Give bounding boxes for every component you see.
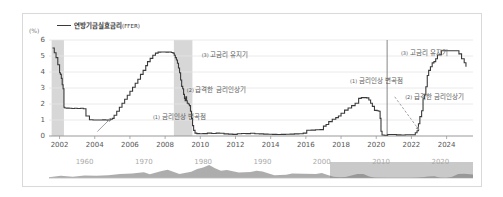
chart-annotation-a1: (1) 금리인상 변곡점 xyxy=(153,111,206,121)
annotation-text: 금리인상 변곡점 xyxy=(162,113,206,121)
range-selector[interactable]: 1960197019801990200020102020 xyxy=(23,156,481,185)
annotation-index: (3) xyxy=(401,50,410,56)
x-axis-tick-label: 2018 xyxy=(332,141,350,149)
overview-tick-label: 1970 xyxy=(135,158,153,166)
y-axis-tick-label: 1 xyxy=(23,116,45,124)
y-axis-unit-label: (%) xyxy=(29,27,39,34)
annotation-index: (1) xyxy=(153,114,162,120)
x-axis-tick-label: 2002 xyxy=(51,141,69,149)
y-axis-tick-label: 5 xyxy=(23,52,45,60)
legend-swatch xyxy=(57,25,71,26)
overview-tick-label: 1990 xyxy=(254,158,272,166)
annotation-index: (3) xyxy=(202,52,211,58)
overview-tick-label: 2000 xyxy=(313,158,331,166)
annotation-text: 급격한 금리인상기 xyxy=(414,93,464,101)
y-axis-tick-label: 0 xyxy=(23,132,45,140)
x-axis-tick-label: 2004 xyxy=(86,141,104,149)
chart-annotation-a6: (3) 고금리 유지기 xyxy=(401,47,448,57)
x-axis-tick-label: 2022 xyxy=(403,141,421,149)
chart-annotation-a5: (2) 급격한 금리인상기 xyxy=(405,91,464,101)
x-axis-tick-label: 2012 xyxy=(227,141,245,149)
annotation-index: (1) xyxy=(350,78,359,84)
y-axis-tick-label: 6 xyxy=(23,36,45,44)
x-axis-tick-label: 2010 xyxy=(191,141,209,149)
annotation-text: 급격한 금리인상기 xyxy=(195,86,245,94)
legend-label: 연방기금실효금리(FFER) xyxy=(74,20,140,30)
screenshot-root: (%)0123456200220042006200820102012201420… xyxy=(0,0,503,197)
x-axis-tick-label: 2014 xyxy=(262,141,280,149)
x-axis-tick-label: 2024 xyxy=(438,141,456,149)
x-axis-tick-label: 2016 xyxy=(297,141,315,149)
chart-legend: 연방기금실효금리(FFER) xyxy=(57,20,140,30)
chart-annotation-a3: (3) 고금리 유지기 xyxy=(202,49,249,59)
x-axis-tick-label: 2006 xyxy=(121,141,139,149)
x-axis-tick-label: 2020 xyxy=(367,141,385,149)
overview-tick-label: 1960 xyxy=(76,158,94,166)
annotation-text: 금리인상 변곡점 xyxy=(359,77,403,85)
x-axis-tick-label: 2008 xyxy=(156,141,174,149)
series-line-ffer xyxy=(53,48,466,135)
chart-annotation-a2: (2) 급격한 금리인상기 xyxy=(187,84,246,94)
y-axis-tick-label: 2 xyxy=(23,100,45,108)
main-chart-area: (%)0123456200220042006200820102012201420… xyxy=(23,14,481,154)
overview-tick-label: 1980 xyxy=(194,158,212,166)
chart-card: (%)0123456200220042006200820102012201420… xyxy=(22,13,482,187)
annotation-index: (2) xyxy=(405,94,414,100)
overview-tick-label: 2020 xyxy=(431,158,449,166)
y-axis-tick-label: 3 xyxy=(23,84,45,92)
range-selector-selection[interactable] xyxy=(330,162,473,178)
annotation-arrow xyxy=(395,97,420,131)
annotation-text: 고금리 유지기 xyxy=(210,51,248,59)
y-axis-tick-label: 4 xyxy=(23,68,45,76)
ffer-line-chart xyxy=(23,14,481,154)
annotation-text: 고금리 유지기 xyxy=(410,49,448,57)
chart-annotation-a4: (1) 금리인상 변곡점 xyxy=(350,75,403,85)
legend-label-suffix: (FFER) xyxy=(122,23,140,29)
overview-tick-label: 2010 xyxy=(372,158,390,166)
